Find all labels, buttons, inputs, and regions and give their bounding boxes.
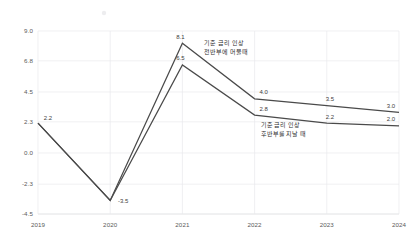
y-tick-label: 9.0	[24, 27, 33, 34]
line-chart: 9.06.84.52.30.0-2.3-4.5 2019202020212022…	[0, 0, 407, 244]
x-tick-label: 2024	[392, 221, 407, 228]
y-tick-label: 4.5	[24, 88, 33, 95]
faint-dot-icon	[102, 11, 106, 15]
vertical-gridlines-group	[38, 31, 399, 214]
y-tick-label: -2.3	[22, 180, 34, 187]
x-tick-label: 2020	[103, 221, 118, 228]
y-tick-label: 2.3	[24, 118, 33, 125]
data-point-label: 8.1	[176, 34, 185, 40]
series-line-lower	[38, 65, 399, 201]
y-axis-tick-labels: 9.06.84.52.30.0-2.3-4.5	[22, 27, 34, 217]
annotation-upper-scenario-line2: 전반부에 머물때	[204, 48, 248, 56]
data-point-label: 3.0	[387, 103, 396, 109]
y-tick-label: 6.8	[24, 57, 33, 64]
annotation-lower-scenario-line2: 후반부를 지날 때	[261, 130, 306, 138]
y-tick-label: 0.0	[24, 149, 33, 156]
x-tick-label: 2019	[31, 221, 46, 228]
data-point-label: 6.5	[176, 55, 185, 61]
data-point-label: -3.5	[118, 198, 129, 204]
chart-canvas: 9.06.84.52.30.0-2.3-4.5 2019202020212022…	[0, 0, 407, 244]
annotation-upper-scenario-line1: 기준 금리 인상	[204, 39, 243, 47]
data-point-label: 2.8	[259, 106, 268, 112]
annotations-group: 기준 금리 인상전반부에 머물때기준 금리 인상후반부를 지날 때	[204, 39, 306, 138]
x-axis-tick-labels: 201920202021202220232024	[31, 221, 407, 228]
gridlines-group	[38, 31, 399, 214]
data-point-label: 2.2	[44, 115, 53, 121]
x-tick-label: 2023	[320, 221, 335, 228]
data-point-label: 3.5	[326, 96, 335, 102]
data-point-label: 2.2	[326, 114, 335, 120]
x-tick-label: 2022	[248, 221, 263, 228]
data-point-label: 2.0	[387, 116, 396, 122]
data-point-label: 4.0	[259, 89, 268, 95]
decorative-mark-group	[102, 11, 106, 15]
data-point-labels: 2.2-3.58.14.03.53.06.52.82.22.0	[44, 34, 396, 204]
y-tick-label: -4.5	[22, 210, 34, 217]
annotation-lower-scenario-line1: 기준 금리 인상	[261, 121, 300, 129]
x-tick-label: 2021	[175, 221, 190, 228]
